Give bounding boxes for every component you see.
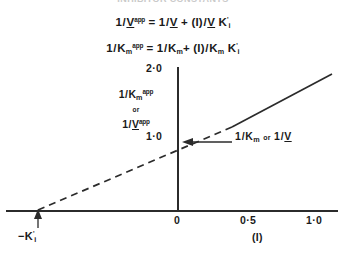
ylab-sup-app-1: app bbox=[143, 88, 154, 95]
x-axis-label: (I) bbox=[252, 231, 263, 243]
series-extrapolated-dashed bbox=[38, 127, 232, 210]
ylab-sup-app-2: app bbox=[139, 118, 150, 125]
ann-sub-m: m bbox=[253, 135, 260, 144]
ylab-one-1: 1 bbox=[119, 88, 125, 100]
ann-V: V bbox=[284, 130, 291, 142]
ann-sub-i: i bbox=[34, 235, 36, 244]
x-tick-label-10: 1·0 bbox=[306, 214, 322, 226]
x-tick-label-0: 0 bbox=[174, 214, 180, 226]
series-measured-solid bbox=[232, 74, 332, 127]
y-tick-label-2: 2·0 bbox=[146, 62, 162, 74]
ann-Ki: K bbox=[25, 230, 33, 242]
x-intercept-annotation: −K'i bbox=[18, 230, 37, 244]
ylab-V: V bbox=[132, 118, 139, 130]
ann-minus: − bbox=[18, 230, 25, 242]
y-intercept-annotation: 1/Km or 1/V bbox=[235, 130, 292, 144]
y-axis-label: 1/Kmapp or 1/Vapp bbox=[96, 84, 176, 132]
x-intercept-arrow-head bbox=[34, 209, 42, 219]
ylab-K: K bbox=[129, 88, 137, 100]
ann-or: or bbox=[263, 134, 271, 141]
y-axis-label-line-1: 1/Kmapp bbox=[96, 84, 176, 105]
y-axis-label-line-2: 1/Vapp bbox=[96, 114, 176, 132]
y-axis-label-or: or bbox=[96, 105, 176, 114]
y-intercept-arrow-head bbox=[182, 138, 193, 146]
kinetics-figure: INHIBITOR CONSTANTS 1/Vapp = 1/V + (I)/V… bbox=[0, 0, 346, 261]
x-tick-label-05: 0·5 bbox=[240, 214, 256, 226]
